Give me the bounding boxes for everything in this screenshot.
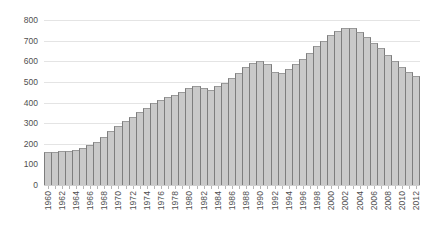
x-axis-label-cell: 2002	[342, 190, 349, 230]
x-axis-label-cell: 1976	[158, 190, 165, 230]
x-axis-label-cell: 1970	[115, 190, 122, 230]
x-axis-label-cell: 2012	[413, 190, 420, 230]
x-axis-label-cell: 1990	[257, 190, 264, 230]
x-axis-label-cell: 1966	[87, 190, 94, 230]
x-axis-label-cell: 1986	[228, 190, 235, 230]
x-axis-label-cell: 1968	[101, 190, 108, 230]
x-axis-label-cell: 1984	[214, 190, 221, 230]
bar	[412, 76, 420, 185]
x-axis-label-cell: 2000	[328, 190, 335, 230]
y-axis-tick-label: 100	[0, 160, 38, 169]
y-axis-tick-label: 200	[0, 139, 38, 148]
x-axis-label-cell: 1980	[186, 190, 193, 230]
x-axis-labels: 1960196219641966196819701972197419761978…	[44, 190, 420, 230]
x-axis-label-cell: 2006	[370, 190, 377, 230]
x-axis-label-cell: 1964	[72, 190, 79, 230]
x-axis-label-cell: 2010	[399, 190, 406, 230]
y-axis-tick-label: 600	[0, 57, 38, 66]
x-axis-label-cell: 1962	[58, 190, 65, 230]
x-axis-label-cell: 1972	[129, 190, 136, 230]
bar-series	[44, 20, 420, 185]
x-axis-label-cell: 1960	[44, 190, 51, 230]
y-axis-tick-label: 0	[0, 181, 38, 190]
y-axis-tick-label: 700	[0, 36, 38, 45]
plot-area	[44, 20, 420, 185]
x-axis-label-cell: 1992	[271, 190, 278, 230]
x-axis-label-cell: 2004	[356, 190, 363, 230]
y-axis-tick-label: 400	[0, 98, 38, 107]
x-axis-label-cell: 2008	[385, 190, 392, 230]
x-axis-label-cell: 1974	[143, 190, 150, 230]
x-axis-label-cell: 1988	[243, 190, 250, 230]
x-axis-tick-label: 2012	[411, 191, 421, 210]
x-axis-label-cell: 1982	[200, 190, 207, 230]
y-axis: 0100200300400500600700800	[0, 20, 40, 185]
x-axis-label-cell: 1998	[314, 190, 321, 230]
y-axis-tick-label: 800	[0, 16, 38, 25]
x-axis-label-cell: 1996	[299, 190, 306, 230]
y-axis-tick-label: 300	[0, 119, 38, 128]
bar-chart: 0100200300400500600700800 19601962196419…	[0, 0, 438, 230]
x-axis-label-cell: 1994	[285, 190, 292, 230]
y-axis-tick-label: 500	[0, 77, 38, 86]
x-axis-label-cell: 1978	[172, 190, 179, 230]
